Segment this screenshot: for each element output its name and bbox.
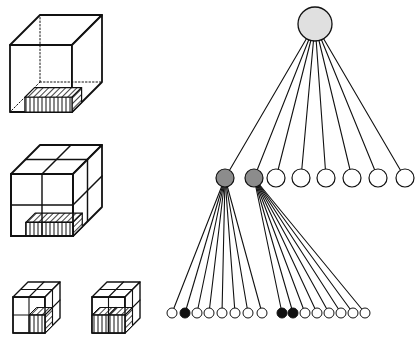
tree-edges	[172, 24, 405, 313]
edge-line	[254, 178, 365, 313]
hatched-object-front	[26, 222, 73, 236]
level1-node-empty	[292, 169, 310, 187]
level1-node-empty	[317, 169, 335, 187]
edge-line	[276, 24, 315, 178]
leaf-node-empty	[230, 308, 240, 318]
leaf-node-empty	[192, 308, 202, 318]
edge-line	[225, 24, 315, 178]
level1-node-internal	[216, 169, 234, 187]
octree-figure	[0, 0, 420, 345]
hatched-object-front	[25, 97, 72, 112]
edge-line	[254, 178, 329, 313]
leaf-node-occupied	[277, 308, 287, 318]
leaf-node-empty	[360, 308, 370, 318]
octree-diagram	[0, 0, 420, 345]
level1-node-empty	[267, 169, 285, 187]
edge-line	[315, 24, 405, 178]
level1-node-empty	[369, 169, 387, 187]
leaf-node-empty	[204, 308, 214, 318]
edge-line	[185, 178, 225, 313]
edge-line	[254, 24, 315, 178]
leaf-node-empty	[217, 308, 227, 318]
level1-node-empty	[396, 169, 414, 187]
level1-node-empty	[343, 169, 361, 187]
leaf-node-empty	[167, 308, 177, 318]
leaf-node-occupied	[180, 308, 190, 318]
edge-line	[254, 178, 282, 313]
leaf-node-empty	[257, 308, 267, 318]
tree-nodes	[167, 7, 414, 318]
cube-level-2b	[92, 282, 140, 333]
edge-line	[301, 24, 315, 178]
root-node	[298, 7, 332, 41]
edge-line	[254, 178, 353, 313]
cube-subdivisions	[10, 15, 140, 333]
leaf-node-empty	[348, 308, 358, 318]
leaf-node-empty	[336, 308, 346, 318]
cube-level-2a	[13, 282, 60, 333]
leaf-node-empty	[300, 308, 310, 318]
edge-line	[225, 178, 248, 313]
hatched-cell-front	[29, 315, 45, 333]
leaf-node-empty	[312, 308, 322, 318]
cube-level-0	[10, 15, 102, 112]
leaf-node-empty	[243, 308, 253, 318]
edge-line	[254, 178, 317, 313]
leaf-node-empty	[324, 308, 334, 318]
cube-level-1	[11, 145, 102, 236]
leaf-node-occupied	[288, 308, 298, 318]
edge-line	[254, 178, 293, 313]
level1-node-internal	[245, 169, 263, 187]
